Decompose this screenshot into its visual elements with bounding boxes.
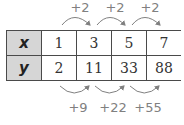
bottom-difference-3: +55 (134, 100, 161, 115)
top-difference-3: +2 (140, 0, 159, 15)
top-difference-1: +2 (70, 0, 89, 15)
top-arrow-2 (97, 18, 125, 26)
cell-x-3: 5 (112, 31, 147, 56)
cell-y-1: 2 (42, 56, 77, 81)
cell-x-4: 7 (147, 31, 182, 56)
cell-y-3: 33 (112, 56, 147, 81)
table-row-y: y 2 11 33 88 (7, 56, 182, 81)
bottom-arrow-1 (60, 86, 89, 93)
bottom-arrow-2 (95, 86, 124, 93)
top-difference-2: +2 (105, 0, 124, 15)
table-row-x: x 1 3 5 7 (7, 31, 182, 56)
bottom-difference-1: +9 (68, 100, 87, 115)
cell-y-4: 88 (147, 56, 182, 81)
row-header-y: y (7, 56, 42, 81)
bottom-arrow-3 (130, 86, 159, 93)
bottom-difference-2: +22 (99, 100, 126, 115)
cell-y-2: 11 (77, 56, 112, 81)
cell-x-2: 3 (77, 31, 112, 56)
row-header-x: x (7, 31, 42, 56)
cell-x-1: 1 (42, 31, 77, 56)
xy-table: x 1 3 5 7 y 2 11 33 88 (6, 30, 181, 81)
top-arrow-3 (132, 18, 160, 26)
top-arrow-1 (62, 18, 90, 26)
